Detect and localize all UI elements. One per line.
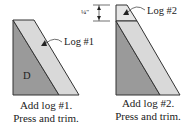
step-2-figure: ¼" Log #2 Add log #2. Press and trim. xyxy=(81,5,181,122)
log-1-callout: Log #1 xyxy=(64,36,94,47)
dimension-arrow-up-icon xyxy=(97,6,101,10)
log-cabin-diagram: D Log #1 Add log #1. Press and trim. ¼" … xyxy=(0,0,189,128)
piece-d-label: D xyxy=(23,70,31,81)
log-2-callout: Log #2 xyxy=(147,5,177,16)
measurement-label: ¼" xyxy=(81,8,89,16)
step-2-caption-line1: Add log #2. xyxy=(122,97,175,109)
callout-leader-line xyxy=(46,39,62,43)
step-2-caption-line2: Press and trim. xyxy=(115,110,181,122)
step-1-figure: D Log #1 Add log #1. Press and trim. xyxy=(13,20,94,124)
dimension-arrow-down-icon xyxy=(97,16,101,20)
step-1-caption-line1: Add log #1. xyxy=(20,99,73,111)
step-1-caption-line2: Press and trim. xyxy=(13,112,79,124)
